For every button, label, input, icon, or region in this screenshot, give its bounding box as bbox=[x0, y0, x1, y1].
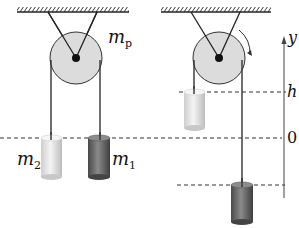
right-mass-m2-raised bbox=[184, 89, 205, 131]
pulley-mass-label: mp bbox=[108, 28, 132, 46]
mass-m2 bbox=[41, 135, 62, 180]
h-level-label: h bbox=[287, 84, 297, 100]
zero-level-label: 0 bbox=[287, 130, 297, 146]
mass1-label: m1 bbox=[112, 150, 136, 168]
right-pulley-axle bbox=[215, 54, 223, 62]
mass2-label: m2 bbox=[17, 150, 41, 168]
left-pulley-axle bbox=[72, 54, 80, 62]
y-axis-label: y bbox=[288, 30, 297, 46]
right-mass-m1-lowered bbox=[231, 182, 253, 225]
left-ceiling bbox=[17, 7, 129, 12]
y-axis-arrow-icon bbox=[282, 36, 287, 44]
pulley-diagram bbox=[0, 0, 299, 228]
mass-m1 bbox=[88, 135, 110, 180]
right-ceiling bbox=[161, 7, 271, 12]
